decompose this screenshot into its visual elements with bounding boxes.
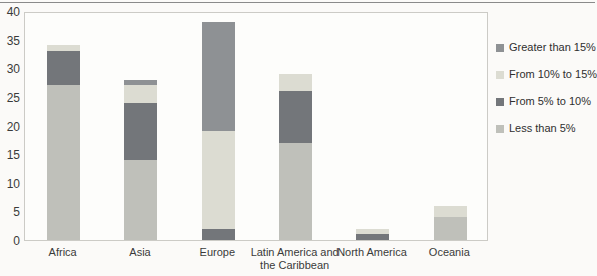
legend-item: From 10% to 15%	[496, 69, 594, 80]
y-tick-label: 15	[0, 149, 20, 161]
bar-column	[257, 13, 334, 240]
stacked-bar	[124, 80, 157, 240]
bar-segment	[47, 51, 80, 85]
stacked-bar	[202, 22, 235, 240]
y-tick-label: 30	[0, 63, 20, 75]
legend-item: Less than 5%	[496, 123, 594, 134]
bar-column	[412, 13, 489, 240]
bar-segment	[124, 85, 157, 102]
bar-segment	[356, 234, 389, 240]
legend-label: Greater than 15%	[509, 42, 596, 53]
stacked-bar	[434, 206, 467, 240]
bar-segment	[279, 74, 312, 91]
bar-column	[180, 13, 257, 240]
legend-swatch-icon	[496, 44, 504, 52]
legend: Greater than 15%From 10% to 15%From 5% t…	[496, 42, 594, 150]
legend-label: From 5% to 10%	[509, 96, 591, 107]
legend-swatch-icon	[496, 71, 504, 79]
bar-column	[102, 13, 179, 240]
y-tick-label: 35	[0, 35, 20, 47]
bar-segment	[124, 160, 157, 240]
legend-item: From 5% to 10%	[496, 96, 594, 107]
bar-column	[25, 13, 102, 240]
top-divider-line	[0, 2, 595, 3]
bar-segment	[434, 217, 467, 240]
legend-item: Greater than 15%	[496, 42, 594, 53]
x-category-label: Oceania	[401, 246, 497, 259]
y-tick-label: 10	[0, 178, 20, 190]
bar-segment	[124, 103, 157, 160]
plot-area	[24, 12, 488, 241]
bar-segment	[202, 22, 235, 131]
legend-swatch-icon	[496, 125, 504, 133]
y-tick-label: 40	[0, 6, 20, 18]
y-tick-label: 5	[0, 206, 20, 218]
bar-segment	[202, 131, 235, 228]
bar-segment	[202, 229, 235, 240]
y-tick-label: 20	[0, 121, 20, 133]
legend-label: From 10% to 15%	[509, 69, 597, 80]
stacked-bar	[356, 229, 389, 240]
bar-segment	[47, 85, 80, 240]
legend-swatch-icon	[496, 98, 504, 106]
legend-label: Less than 5%	[509, 123, 576, 134]
stacked-bar	[279, 74, 312, 240]
y-tick-label: 25	[0, 92, 20, 104]
bar-segment	[279, 91, 312, 143]
bar-column	[334, 13, 411, 240]
stacked-bar	[47, 45, 80, 240]
bar-segment	[434, 206, 467, 217]
bar-segment	[279, 143, 312, 240]
